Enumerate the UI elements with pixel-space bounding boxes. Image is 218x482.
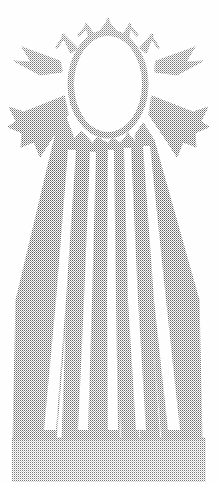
halftone-sun-illustration (0, 0, 218, 482)
artwork-canvas: Halftone Sun with Radiating Beams (0, 0, 218, 482)
base-tone-overlay (0, 440, 218, 482)
sun-halftone-body (0, 0, 218, 482)
